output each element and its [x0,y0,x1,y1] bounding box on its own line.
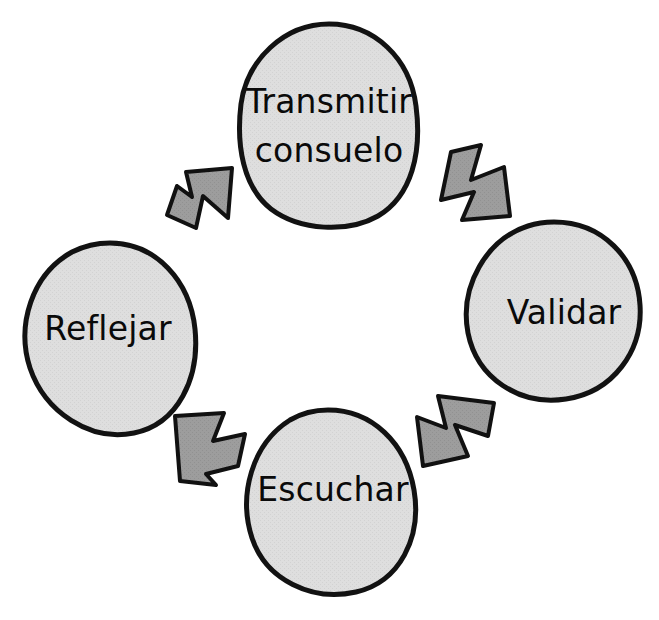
arrow-up-right-icon [167,168,232,228]
arrow-down-right-icon [441,145,510,220]
node-reflejar-label: Reflejar [44,309,172,348]
node-transmitir-consuelo-label-line1: Transmitir [245,82,412,121]
arrow-down-left-icon [417,396,494,466]
node-transmitir-consuelo[interactable]: Transmitir consuelo [240,24,418,227]
node-validar-label: Validar [507,293,622,332]
cycle-diagram: Transmitir consuelo Validar Escuchar R [0,0,659,620]
node-escuchar-label: Escuchar [257,470,409,509]
diagram-canvas: Transmitir consuelo Validar Escuchar R [0,0,659,620]
arrow-validar-to-escuchar [417,396,494,466]
arrow-reflejar-to-transmitir [167,168,232,228]
node-transmitir-consuelo-shape [240,24,418,227]
arrow-escuchar-to-reflejar [175,413,245,485]
arrow-up-left-icon [175,413,245,485]
node-validar[interactable]: Validar [466,222,640,400]
node-reflejar[interactable]: Reflejar [25,243,196,435]
node-escuchar[interactable]: Escuchar [247,410,416,594]
arrow-transmitir-to-validar [441,145,510,220]
node-transmitir-consuelo-label-line2: consuelo [255,131,404,170]
